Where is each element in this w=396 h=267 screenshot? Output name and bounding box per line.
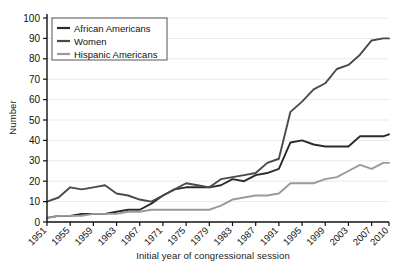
legend-label-0: African Americans <box>74 23 151 34</box>
y-tick-label-60: 60 <box>29 94 41 105</box>
y-tick-label-30: 30 <box>29 155 41 166</box>
x-tick-label-1963: 1963 <box>95 225 118 248</box>
x-tick-label-1951: 1951 <box>26 225 49 248</box>
x-tick-label-1967: 1967 <box>118 225 141 248</box>
x-tick-label-1987: 1987 <box>234 225 257 248</box>
x-tick-label-1959: 1959 <box>72 225 95 248</box>
chart-plot-area: 0102030405060708090100 19511955195919631… <box>0 0 396 267</box>
x-tick-label-1971: 1971 <box>142 225 165 248</box>
y-axis-ticks: 0102030405060708090100 <box>23 13 47 228</box>
y-tick-label-80: 80 <box>29 53 41 64</box>
y-tick-label-100: 100 <box>23 13 40 24</box>
series-line-2 <box>47 163 389 218</box>
y-tick-label-40: 40 <box>29 135 41 146</box>
x-tick-label-1955: 1955 <box>49 225 72 248</box>
y-axis-title: Number <box>7 88 18 148</box>
x-axis-title: Initial year of congressional session <box>108 250 318 261</box>
x-tick-label-2007: 2007 <box>350 225 373 248</box>
x-tick-label-1999: 1999 <box>304 225 327 248</box>
y-tick-label-90: 90 <box>29 33 41 44</box>
x-tick-label-2003: 2003 <box>327 225 350 248</box>
legend-label-2: Hispanic Americans <box>74 49 158 60</box>
x-tick-label-1983: 1983 <box>211 225 234 248</box>
x-tick-label-1975: 1975 <box>165 225 188 248</box>
x-tick-label-1991: 1991 <box>258 225 281 248</box>
y-tick-label-70: 70 <box>29 74 41 85</box>
x-axis-ticks: 1951195519591963196719711975197919831987… <box>26 222 391 247</box>
chart-legend: African AmericansWomenHispanic Americans <box>52 18 167 60</box>
data-series-group <box>47 38 389 218</box>
x-tick-label-1995: 1995 <box>281 225 304 248</box>
x-tick-label-2010: 2010 <box>368 225 391 248</box>
y-tick-label-20: 20 <box>29 176 41 187</box>
legend-label-1: Women <box>74 36 107 47</box>
line-chart: 0102030405060708090100 19511955195919631… <box>0 0 396 267</box>
y-tick-label-10: 10 <box>29 196 41 207</box>
x-tick-label-1979: 1979 <box>188 225 211 248</box>
y-tick-label-50: 50 <box>29 115 41 126</box>
